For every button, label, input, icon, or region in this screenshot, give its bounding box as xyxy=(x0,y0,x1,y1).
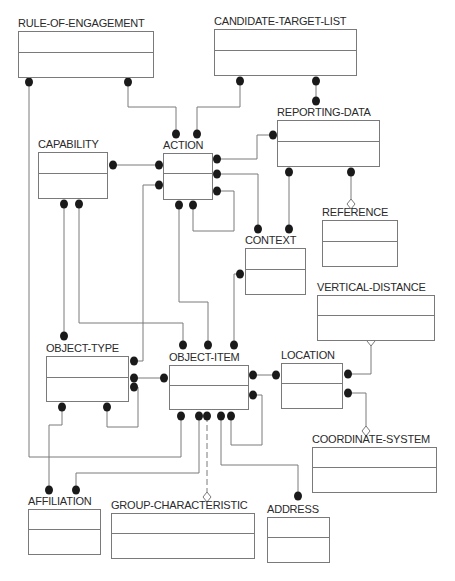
entity-name: COORDINATE-SYSTEM xyxy=(312,433,430,446)
cardinality-dot-icon xyxy=(312,97,320,106)
cardinality-dot-icon xyxy=(217,412,225,421)
cardinality-dot-icon xyxy=(236,270,244,279)
entity-vertical-distance[interactable]: VERTICAL-DISTANCE xyxy=(317,295,435,341)
cardinality-dot-icon xyxy=(124,78,132,87)
entity-name: AFFILIATION xyxy=(28,495,92,508)
cardinality-dot-icon xyxy=(103,403,111,412)
cardinality-dot-icon xyxy=(344,389,352,398)
cardinality-dot-icon xyxy=(203,412,211,421)
entity-name: REPORTING-DATA xyxy=(277,106,371,119)
entity-box xyxy=(281,363,343,409)
entity-context[interactable]: CONTEXT xyxy=(245,248,306,295)
entity-name: REFERENCE xyxy=(322,206,388,219)
cardinality-dot-icon xyxy=(179,341,187,350)
cardinality-dot-icon xyxy=(236,77,244,86)
cardinality-dot-icon xyxy=(249,371,257,380)
entity-key-area xyxy=(282,364,342,384)
entity-box xyxy=(312,447,437,493)
entity-key-area xyxy=(313,448,436,468)
cardinality-dot-icon xyxy=(249,391,257,400)
entity-name: RULE-OF-ENGAGEMENT xyxy=(18,17,145,30)
entity-affiliation[interactable]: AFFILIATION xyxy=(28,509,101,555)
entity-box xyxy=(267,517,330,563)
cardinality-dot-icon xyxy=(155,161,163,170)
entity-box xyxy=(111,513,255,559)
cardinality-dot-icon xyxy=(213,170,221,179)
cardinality-dot-icon xyxy=(285,168,293,177)
entity-name: OBJECT-TYPE xyxy=(46,342,119,355)
cardinality-dot-icon xyxy=(177,412,185,421)
entity-group-characteristic[interactable]: GROUP-CHARACTERISTIC xyxy=(111,513,255,559)
relationship-context-to-object-item xyxy=(234,274,240,345)
cardinality-dot-icon xyxy=(160,374,168,383)
entity-reporting-data[interactable]: REPORTING-DATA xyxy=(277,120,380,167)
cardinality-dot-icon xyxy=(45,486,53,495)
entity-name: CANDIDATE-TARGET-LIST xyxy=(214,15,346,28)
entity-box xyxy=(245,248,306,295)
entity-capability[interactable]: CAPABILITY xyxy=(38,152,108,199)
entity-reference[interactable]: REFERENCE xyxy=(322,220,398,267)
cardinality-dot-icon xyxy=(189,201,197,210)
cardinality-dot-icon xyxy=(25,78,33,87)
relationship-rule-of-engagement-to-action xyxy=(128,82,176,134)
entity-key-area xyxy=(323,221,397,242)
cardinality-dot-icon xyxy=(155,181,163,190)
cardinality-dot-icon xyxy=(213,155,221,164)
entity-rule-of-engagement[interactable]: RULE-OF-ENGAGEMENT xyxy=(18,31,154,78)
entity-name: GROUP-CHARACTERISTIC xyxy=(111,499,248,512)
cardinality-dot-icon xyxy=(58,403,66,412)
entity-key-area xyxy=(39,153,107,174)
cardinality-dot-icon xyxy=(294,492,302,501)
cardinality-dot-icon xyxy=(230,341,238,350)
entity-box xyxy=(322,220,398,267)
entity-candidate-target-list[interactable]: CANDIDATE-TARGET-LIST xyxy=(214,29,357,76)
cardinality-dot-icon xyxy=(130,383,138,392)
entity-box xyxy=(214,29,357,76)
entity-key-area xyxy=(246,249,305,270)
cardinality-dot-icon xyxy=(347,168,355,177)
entity-coordinate-system[interactable]: COORDINATE-SYSTEM xyxy=(312,447,437,493)
entity-box xyxy=(317,295,435,341)
cardinality-dot-icon xyxy=(175,201,183,210)
cardinality-dot-icon xyxy=(60,200,68,209)
cardinality-dot-icon xyxy=(75,200,83,209)
relationship-action-to-object-item xyxy=(179,205,208,345)
entity-box xyxy=(169,365,249,410)
entity-box xyxy=(277,120,380,167)
relationship-action-to-object-type xyxy=(134,185,159,361)
cardinality-dot-icon xyxy=(269,131,277,140)
entity-key-area xyxy=(268,518,329,538)
entity-box xyxy=(38,152,108,199)
entity-key-area xyxy=(19,32,153,53)
cardinality-dot-icon xyxy=(213,187,221,196)
entity-object-item[interactable]: OBJECT-ITEM xyxy=(169,365,249,410)
cardinality-dot-icon xyxy=(254,225,262,234)
entity-location[interactable]: LOCATION xyxy=(281,363,343,409)
entity-key-area xyxy=(112,514,254,534)
cardinality-dot-icon xyxy=(195,412,203,421)
entity-name: ADDRESS xyxy=(267,503,319,516)
entity-box xyxy=(18,31,154,78)
entity-address[interactable]: ADDRESS xyxy=(267,517,330,563)
entity-name: CAPABILITY xyxy=(38,138,99,151)
entity-box xyxy=(163,153,213,200)
cardinality-dot-icon xyxy=(227,412,235,421)
entity-action[interactable]: ACTION xyxy=(163,153,213,200)
cardinality-dot-icon xyxy=(172,130,180,139)
entity-box xyxy=(46,356,129,402)
cardinality-dot-icon xyxy=(312,77,320,86)
entity-name: VERTICAL-DISTANCE xyxy=(317,281,426,294)
cardinality-dot-icon xyxy=(130,357,138,366)
entity-name: LOCATION xyxy=(281,349,335,362)
er-diagram-canvas: RULE-OF-ENGAGEMENTCANDIDATE-TARGET-LISTR… xyxy=(0,0,455,581)
relationship-action-to-context xyxy=(217,174,258,229)
relationship-object-type-to-affiliation xyxy=(49,407,62,490)
relationship-location-to-coordinate-system xyxy=(348,393,366,427)
entity-object-type[interactable]: OBJECT-TYPE xyxy=(46,356,129,402)
entity-key-area xyxy=(164,154,212,174)
cardinality-dot-icon xyxy=(72,486,80,495)
entity-key-area xyxy=(47,357,128,378)
cardinality-dot-icon xyxy=(204,341,212,350)
entity-name: ACTION xyxy=(163,139,203,152)
relationship-object-item-to-address xyxy=(221,416,298,496)
